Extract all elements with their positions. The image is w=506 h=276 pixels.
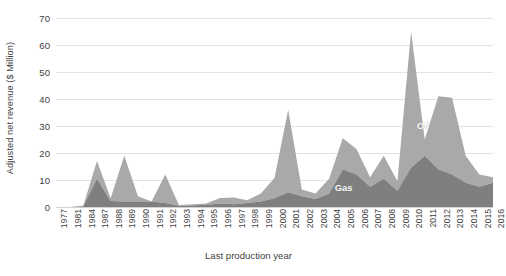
x-tick-label: 2008	[387, 209, 397, 228]
x-tick-label: 2006	[360, 209, 370, 228]
x-tick-label: 2005	[346, 209, 356, 228]
y-tick-label: 20	[18, 148, 50, 159]
x-tick-label: 1989	[127, 209, 137, 228]
x-tick-label: 2000	[278, 209, 288, 228]
x-tick-label: 1981	[73, 209, 83, 228]
y-axis-title: Adjusted net revenue ($ Million)	[2, 0, 18, 215]
x-tick-label: 2010	[414, 209, 424, 228]
x-tick-label: 2016	[496, 209, 506, 228]
series-annotation-oil: Oil	[417, 120, 430, 131]
x-tick-label: 1988	[114, 209, 124, 228]
x-tick-label: 1993	[182, 209, 192, 228]
y-axis-ticks: 010203040506070	[18, 0, 50, 215]
x-tick-label: 2015	[483, 209, 493, 228]
x-tick-label: 2013	[455, 209, 465, 228]
x-tick-label: 2004	[332, 209, 342, 228]
x-tick-label: 2002	[305, 209, 315, 228]
gridline-0	[56, 207, 493, 208]
x-tick-label: 2001	[291, 209, 301, 228]
x-axis-title: Last production year	[0, 250, 497, 261]
x-tick-label: 1996	[223, 209, 233, 228]
x-tick-label: 1992	[168, 209, 178, 228]
y-tick-label: 60	[18, 40, 50, 51]
y-tick-label: 70	[18, 13, 50, 24]
x-tick-label: 2003	[319, 209, 329, 228]
x-tick-label: 1997	[237, 209, 247, 228]
x-axis-ticks: 1977198119841987198819891990199119921993…	[56, 209, 493, 253]
y-tick-label: 10	[18, 175, 50, 186]
series-annotation-gas: Gas	[335, 182, 353, 193]
x-tick-label: 2007	[373, 209, 383, 228]
plot-area	[56, 18, 493, 207]
x-tick-label: 1998	[250, 209, 260, 228]
y-tick-label: 30	[18, 121, 50, 132]
x-tick-label: 1991	[155, 209, 165, 228]
x-tick-label: 1994	[196, 209, 206, 228]
y-tick-label: 50	[18, 67, 50, 78]
x-tick-label: 2009	[401, 209, 411, 228]
x-tick-label: 2011	[428, 209, 438, 227]
x-tick-label: 2012	[442, 209, 452, 228]
area-series-svg	[56, 18, 493, 207]
x-tick-label: 1977	[59, 209, 69, 228]
x-tick-label: 1984	[87, 209, 97, 228]
x-tick-label: 2014	[469, 209, 479, 228]
y-tick-label: 0	[18, 202, 50, 213]
y-tick-label: 40	[18, 94, 50, 105]
x-tick-label: 1995	[209, 209, 219, 228]
x-tick-label: 1990	[141, 209, 151, 228]
x-tick-label: 1999	[264, 209, 274, 228]
x-tick-label: 1987	[100, 209, 110, 228]
